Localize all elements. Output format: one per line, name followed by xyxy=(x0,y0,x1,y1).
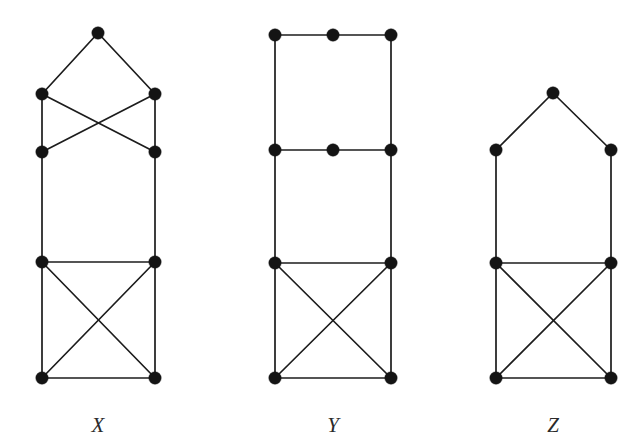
graph-vertex-x-second-left xyxy=(36,146,48,158)
graph-vertex-y-third-right xyxy=(385,257,397,269)
graph-edge xyxy=(553,93,611,150)
graph-vertex-z-bottom-left xyxy=(490,372,502,384)
graph-vertex-y-third-left xyxy=(269,257,281,269)
nodes-layer xyxy=(36,27,617,384)
graph-label-x: X xyxy=(78,415,118,436)
graph-vertex-z-apex xyxy=(547,87,559,99)
graph-vertex-y-second-left xyxy=(269,144,281,156)
graph-edge xyxy=(98,33,155,94)
graph-label-y: Y xyxy=(313,415,353,436)
graph-vertex-z-upper-left xyxy=(490,144,502,156)
graph-vertex-y-second-right xyxy=(385,144,397,156)
graph-vertex-x-third-left xyxy=(36,256,48,268)
graph-vertex-z-bottom-right xyxy=(605,372,617,384)
graph-vertex-y-bottom-right xyxy=(385,372,397,384)
graph-vertex-x-bottom-left xyxy=(36,372,48,384)
graph-vertex-y-bottom-left xyxy=(269,372,281,384)
graph-vertex-y-second-middle xyxy=(327,144,339,156)
graph-vertex-x-upper-left xyxy=(36,88,48,100)
graph-vertex-z-upper-right xyxy=(605,144,617,156)
graph-X-edges xyxy=(42,33,155,378)
graph-vertex-x-third-right xyxy=(149,256,161,268)
figure-root: XYZ xyxy=(0,0,644,447)
graph-vertex-x-apex xyxy=(92,27,104,39)
graph-vertex-y-top-middle xyxy=(327,29,339,41)
graph-vertex-z-middle-right xyxy=(605,257,617,269)
graph-Y-edges xyxy=(275,35,391,378)
graph-edge xyxy=(496,93,553,150)
graph-vertex-y-top-right xyxy=(385,29,397,41)
graph-Z-nodes xyxy=(490,87,617,384)
edges-layer xyxy=(42,33,611,378)
graph-diagram-svg xyxy=(0,0,644,447)
graph-label-z: Z xyxy=(533,415,573,436)
graph-vertex-z-middle-left xyxy=(490,257,502,269)
graph-Y-nodes xyxy=(269,29,397,384)
graph-vertex-x-upper-right xyxy=(149,88,161,100)
graph-vertex-y-top-left xyxy=(269,29,281,41)
graph-edge xyxy=(42,33,98,94)
graph-vertex-x-second-right xyxy=(149,146,161,158)
graph-Z-edges xyxy=(496,93,611,378)
graph-vertex-x-bottom-right xyxy=(149,372,161,384)
